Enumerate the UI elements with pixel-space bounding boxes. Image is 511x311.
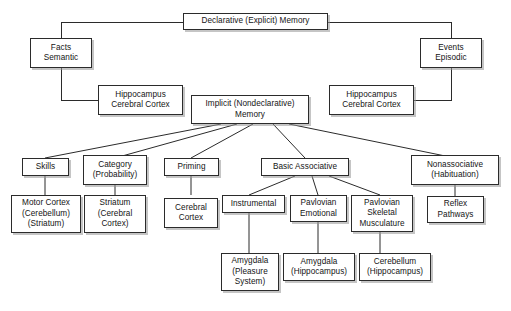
node-hippocampus-cerebral-cortex-left[interactable]: Hippocampus Cerebral Cortex bbox=[98, 85, 183, 115]
connector-basic-to-instrumental bbox=[249, 176, 295, 195]
node-amygdala-pleasure-system[interactable]: Amygdala (Pleasure System) bbox=[221, 253, 279, 291]
connector-implicit-to-priming bbox=[191, 124, 253, 158]
node-instrumental[interactable]: Instrumental bbox=[222, 195, 285, 213]
node-amygdala-hippocampus[interactable]: Amygdala (Hippocampus) bbox=[283, 253, 355, 281]
node-basic-associative[interactable]: Basic Associative bbox=[261, 158, 349, 176]
node-implicit-nondeclarative-memory[interactable]: Implicit (Nondeclarative) Memory bbox=[191, 95, 309, 124]
node-priming[interactable]: Priming bbox=[164, 158, 219, 176]
node-motor-cortex[interactable]: Motor Cortex (Cerebellum) (Striatum) bbox=[11, 195, 81, 233]
node-reflex-pathways[interactable]: Reflex Pathways bbox=[427, 196, 484, 223]
connector-basic-to-pavlovian-emotional bbox=[312, 176, 318, 195]
connector-facts-to-hippocampus-left bbox=[61, 68, 98, 100]
node-category-probability[interactable]: Category (Probability) bbox=[83, 155, 147, 185]
connector-basic-to-pavlovian-skeletal bbox=[329, 176, 380, 195]
node-striatum[interactable]: Striatum (Cerebral Cortex) bbox=[84, 195, 146, 233]
node-cerebral-cortex[interactable]: Cerebral Cortex bbox=[164, 198, 218, 228]
node-pavlovian-skeletal-musculature[interactable]: Pavlovian Skeletal Musculature bbox=[351, 195, 413, 232]
node-facts-semantic[interactable]: Facts Semantic bbox=[30, 38, 92, 68]
connector-implicit-to-basic-associative bbox=[273, 124, 305, 158]
node-nonassociative-habituation[interactable]: Nonassociative (Habituation) bbox=[411, 155, 499, 185]
node-events-episodic[interactable]: Events Episodic bbox=[420, 38, 482, 68]
node-skills[interactable]: Skills bbox=[22, 158, 69, 176]
node-hippocampus-cerebral-cortex-right[interactable]: Hippocampus Cerebral Cortex bbox=[329, 85, 414, 115]
node-declarative-memory[interactable]: Declarative (Explicit) Memory bbox=[183, 13, 328, 30]
connector-events-to-hippocampus-right bbox=[414, 68, 451, 100]
node-pavlovian-emotional[interactable]: Pavlovian Emotional bbox=[290, 195, 347, 222]
node-cerebellum-hippocampus[interactable]: Cerebellum (Hippocampus) bbox=[359, 253, 431, 281]
connector-implicit-to-nonassociative bbox=[289, 124, 455, 158]
memory-taxonomy-diagram: Declarative (Explicit) Memory Facts Sema… bbox=[0, 0, 511, 311]
connector-declarative-to-facts bbox=[61, 22, 183, 38]
connector-declarative-to-events bbox=[328, 22, 451, 38]
